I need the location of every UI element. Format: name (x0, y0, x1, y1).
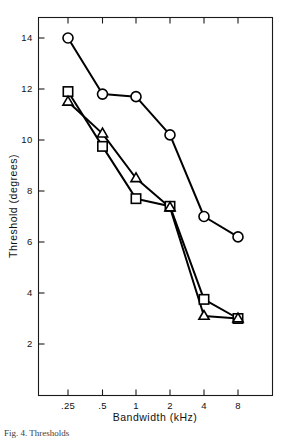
data-point-circle-2 (165, 130, 175, 140)
y-tick-label-14: 14 (21, 32, 32, 43)
series-line-triangle (68, 102, 238, 319)
series-line-circle (68, 38, 238, 237)
data-series-markers (63, 33, 243, 323)
x-tick-label-8: 8 (235, 400, 241, 411)
data-point-square-.5 (98, 142, 107, 151)
data-point-circle-1 (131, 92, 141, 102)
data-series-lines (68, 38, 238, 319)
y-axis-tick-labels: 2468101214 (21, 32, 32, 349)
data-point-square-4 (199, 295, 208, 304)
data-point-circle-.5 (98, 89, 108, 99)
data-point-circle-.25 (63, 33, 73, 43)
plot-frame (39, 18, 273, 396)
data-point-triangle-4 (199, 310, 209, 319)
y-tick-label-10: 10 (21, 134, 32, 145)
x-tick-label-1: 1 (133, 400, 139, 411)
x-tick-label-.5: .5 (98, 400, 107, 411)
threshold-vs-bandwidth-chart: 2468101214 .25.51248 Bandwidth (kHz) Thr… (0, 0, 287, 438)
y-tick-label-12: 12 (21, 83, 32, 94)
y-tick-label-8: 8 (27, 185, 33, 196)
data-point-square-1 (131, 194, 140, 203)
x-tick-label-2: 2 (167, 400, 173, 411)
x-axis-title: Bandwidth (kHz) (113, 411, 198, 423)
x-axis-tick-labels: .25.51248 (61, 400, 241, 411)
y-axis-ticks (39, 38, 45, 344)
x-tick-label-4: 4 (201, 400, 207, 411)
x-axis-ticks (68, 18, 238, 396)
figure-container: 2468101214 .25.51248 Bandwidth (kHz) Thr… (0, 0, 287, 438)
y-axis-title: Threshold (degrees) (7, 154, 19, 258)
y-tick-label-2: 2 (27, 338, 33, 349)
data-point-circle-4 (199, 212, 209, 222)
figure-caption: Fig. 4. Thresholds (4, 429, 264, 438)
data-point-circle-8 (233, 232, 243, 242)
x-tick-label-.25: .25 (61, 400, 75, 411)
y-tick-label-4: 4 (27, 287, 33, 298)
y-tick-label-6: 6 (27, 236, 33, 247)
